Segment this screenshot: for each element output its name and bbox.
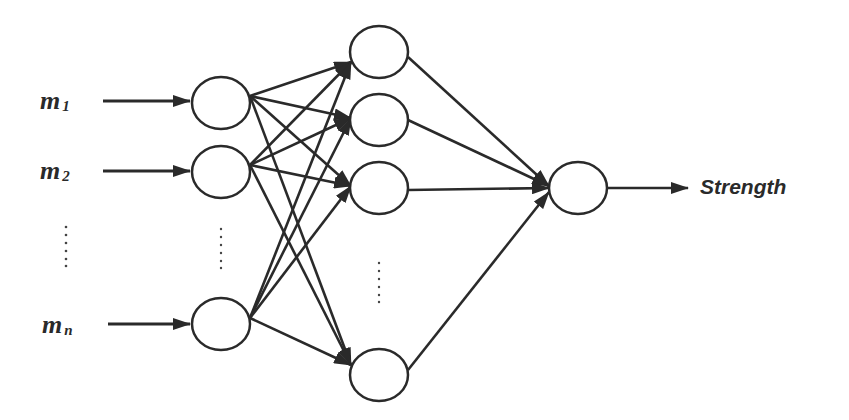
network-diagram xyxy=(0,0,849,420)
input-node-n xyxy=(192,298,250,350)
input-subscript: 2 xyxy=(62,168,70,184)
input-var: m xyxy=(40,86,60,115)
input-label-n: mn xyxy=(42,310,73,340)
input-node-1 xyxy=(192,77,250,129)
input-hidden-connections xyxy=(250,62,351,365)
hidden-node-3 xyxy=(350,162,408,214)
input-subscript: 1 xyxy=(62,98,70,114)
input-label-2: m2 xyxy=(40,156,70,186)
input-var: m xyxy=(40,156,60,185)
input-label-1: m1 xyxy=(40,86,70,116)
input-var: m xyxy=(42,310,62,339)
input-subscript: n xyxy=(64,322,72,338)
hidden-output-connections xyxy=(408,57,549,370)
output-label: Strength xyxy=(700,175,786,199)
output-node xyxy=(549,162,607,214)
hidden-node-n xyxy=(350,349,408,401)
hidden-node-1 xyxy=(350,26,408,78)
ellipsis-dots xyxy=(65,226,381,303)
input-node-2 xyxy=(192,146,250,198)
hidden-node-2 xyxy=(350,94,408,146)
